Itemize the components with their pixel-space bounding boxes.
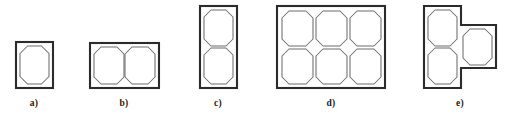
cavity-d-5 [316,49,347,84]
cavity-d-3 [350,11,381,46]
cavity-e-2 [428,48,457,84]
variant-a-group: a) [16,42,53,109]
cavity-d-6 [350,49,381,84]
caption-label-d: d) [327,98,336,109]
cavity-d-4 [282,49,313,84]
cavity-d-2 [316,11,347,46]
cavity-b-2 [125,47,155,84]
caption-label-a: a) [30,98,38,109]
caption-label-b: b) [120,98,129,109]
cavity-e-3 [463,29,492,65]
cavity-layout-diagram: a) b) c) d) [0,0,507,120]
cavity-c-1 [204,10,233,46]
caption-label-e: e) [456,98,464,109]
cavity-e-1 [428,10,457,46]
variant-b-group: b) [90,43,159,109]
cavity-c-2 [204,48,233,84]
caption-label-c: c) [214,98,222,109]
cavity-d-1 [282,11,313,46]
cavity-b-1 [94,47,124,84]
variant-d-group: d) [277,6,385,109]
cavity-a-1 [20,46,49,84]
variant-e-group: e) [424,6,496,109]
figure-canvas: a) b) c) d) [0,0,507,120]
variant-c-group: c) [200,6,237,109]
